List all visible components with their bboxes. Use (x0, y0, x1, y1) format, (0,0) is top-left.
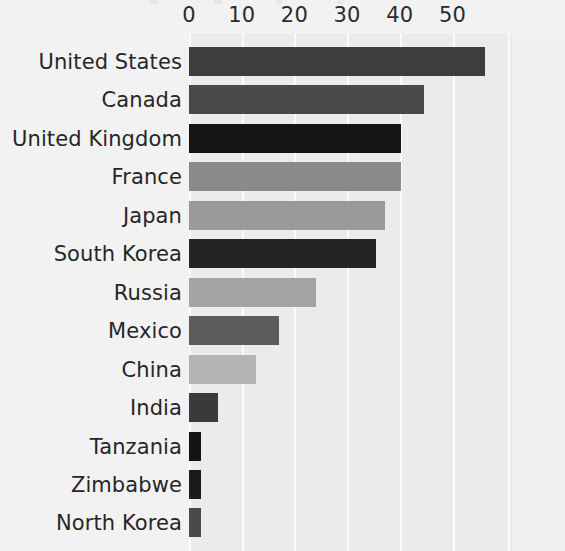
y-axis-category-labels: United StatesCanadaUnited KingdomFranceJ… (0, 34, 182, 551)
x-tick-label: 40 (370, 3, 430, 27)
bar (189, 124, 401, 153)
x-tick-label: 10 (212, 3, 272, 27)
category-label: Canada (0, 88, 182, 112)
category-label: Zimbabwe (0, 473, 182, 497)
x-tick-label: 0 (159, 3, 219, 27)
category-label: France (0, 165, 182, 189)
category-label: United Kingdom (0, 127, 182, 151)
x-tick-label: 20 (264, 3, 324, 27)
bar (189, 316, 279, 345)
category-label: Mexico (0, 319, 182, 343)
bar (189, 355, 256, 384)
category-label: United States (0, 50, 182, 74)
bar (189, 508, 201, 537)
bar (189, 278, 316, 307)
category-label: China (0, 358, 182, 382)
category-label: India (0, 396, 182, 420)
category-label: North Korea (0, 511, 182, 535)
bar (189, 201, 385, 230)
bar (189, 47, 485, 76)
category-label: Tanzania (0, 435, 182, 459)
x-axis-tick-labels: 01020304050 (0, 0, 565, 34)
bar (189, 432, 201, 461)
bar (189, 85, 424, 114)
category-label: Japan (0, 204, 182, 228)
bar (189, 239, 376, 268)
x-tick-label: 50 (423, 3, 483, 27)
bar (189, 162, 401, 191)
x-tick-label: 30 (317, 3, 377, 27)
bar (189, 470, 201, 499)
bar (189, 393, 218, 422)
category-label: Russia (0, 281, 182, 305)
category-label: South Korea (0, 242, 182, 266)
chart-figure: 01020304050 United StatesCanadaUnited Ki… (0, 0, 565, 551)
bars-layer (189, 34, 565, 551)
